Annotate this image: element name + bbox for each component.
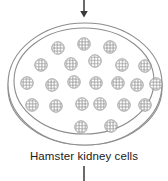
cell: [90, 77, 102, 89]
figure-caption: Hamster kidney cells: [0, 150, 168, 163]
cell: [150, 78, 162, 90]
cell-cytoplasm-hatch: [131, 79, 142, 90]
cell-cytoplasm-hatch: [150, 78, 161, 89]
cell: [139, 99, 151, 111]
cell: [65, 58, 77, 70]
cell-cytoplasm-hatch: [78, 38, 89, 49]
cell: [116, 59, 128, 71]
cell: [118, 99, 130, 111]
cell: [35, 59, 47, 71]
cell-cytoplasm-hatch: [112, 77, 123, 88]
cell-cytoplasm-hatch: [26, 99, 37, 110]
cell: [68, 76, 80, 88]
cell-cytoplasm-hatch: [46, 79, 57, 90]
cell: [46, 79, 58, 91]
cell: [112, 77, 124, 89]
cell: [26, 99, 38, 111]
cell: [94, 98, 106, 110]
cell-culture-diagram: Hamster kidney cells: [0, 0, 168, 181]
cell-cytoplasm-hatch: [50, 100, 61, 111]
cell-cytoplasm-hatch: [52, 42, 63, 53]
cell: [75, 121, 87, 133]
cell-cytoplasm-hatch: [104, 41, 115, 52]
cell: [139, 60, 151, 72]
cell-cytoplasm-hatch: [21, 77, 32, 88]
cell-cytoplasm-hatch: [116, 59, 127, 70]
cell-cytoplasm-hatch: [105, 120, 116, 131]
cell: [52, 42, 64, 54]
cell-cytoplasm-hatch: [65, 58, 76, 69]
cell: [78, 38, 90, 50]
cell: [21, 77, 33, 89]
cell-cytoplasm-hatch: [118, 99, 129, 110]
cell: [76, 98, 88, 110]
cell-cytoplasm-hatch: [89, 55, 100, 66]
cell: [104, 41, 116, 53]
cell-cytoplasm-hatch: [76, 98, 87, 109]
cell-cytoplasm-hatch: [75, 121, 86, 132]
cell: [89, 55, 101, 67]
cell-cytoplasm-hatch: [90, 77, 101, 88]
cell-cytoplasm-hatch: [35, 59, 46, 70]
cell-cytoplasm-hatch: [139, 99, 150, 110]
cell: [50, 100, 62, 112]
cell: [131, 79, 143, 91]
cell-cytoplasm-hatch: [139, 60, 150, 71]
cell-cytoplasm-hatch: [68, 76, 79, 87]
cell-cytoplasm-hatch: [94, 98, 105, 109]
cell: [105, 120, 117, 132]
